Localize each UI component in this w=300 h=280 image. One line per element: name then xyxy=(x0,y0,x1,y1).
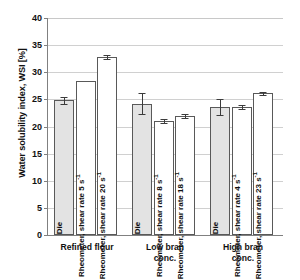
x-axis-category-labels: Refined flourLow branconc.High branconc. xyxy=(47,239,282,269)
y-tick-label: 25 xyxy=(32,95,42,104)
y-tick-label: 0 xyxy=(37,231,42,240)
error-bar-cap-top xyxy=(160,119,167,120)
y-tick-label: 10 xyxy=(32,176,42,185)
bar[interactable]: Rheometer, shear rate 18 s-1 xyxy=(175,116,195,235)
error-bar-cap-top xyxy=(238,105,245,106)
error-bar xyxy=(142,93,143,114)
bar[interactable]: Die xyxy=(54,100,74,235)
bar-label: Die xyxy=(56,222,64,234)
bar-label-superscript: -1 xyxy=(96,172,102,177)
bar-group: DieRheometer, shear rate 5 s-1Rheometer,… xyxy=(54,18,122,235)
bar[interactable]: Rheometer, shear rate 8 s-1 xyxy=(154,121,174,235)
bars-layer: DieRheometer, shear rate 5 s-1Rheometer,… xyxy=(48,18,283,235)
bar-label-superscript: -1 xyxy=(252,172,258,177)
error-bar-cap-bottom xyxy=(260,95,267,96)
error-bar-cap-top xyxy=(217,99,224,100)
error-bar-cap-bottom xyxy=(238,109,245,110)
error-bar-cap-top xyxy=(260,92,267,93)
bar[interactable]: Die xyxy=(210,107,230,235)
error-bar-cap-top xyxy=(182,114,189,115)
error-bar-cap-bottom xyxy=(182,118,189,119)
bar[interactable]: Die xyxy=(132,104,152,235)
error-bar-cap-bottom xyxy=(139,114,146,115)
bar-label-superscript: -1 xyxy=(174,172,180,177)
x-category-label: High branconc. xyxy=(209,242,277,263)
y-tick-label: 15 xyxy=(32,149,42,158)
x-category-label-line: conc. xyxy=(131,253,199,264)
bar[interactable]: Rheometer, shear rate 5 s-1 xyxy=(76,81,96,235)
x-category-label-line: conc. xyxy=(209,253,277,264)
bar-group: DieRheometer, shear rate 4 s-1Rheometer,… xyxy=(210,18,278,235)
bar[interactable]: Rheometer, shear rate 4 s-1 xyxy=(232,107,252,235)
y-tick-label: 40 xyxy=(32,14,42,23)
y-tick-label: 20 xyxy=(32,122,42,131)
bar[interactable]: Rheometer, shear rate 23 s-1 xyxy=(253,93,273,235)
error-bar xyxy=(220,99,221,115)
x-category-label-line: High bran xyxy=(209,242,277,253)
error-bar-cap-bottom xyxy=(104,59,111,60)
x-category-label-line: Refined flour xyxy=(53,242,121,253)
error-bar-cap-top xyxy=(139,93,146,94)
y-tick-label: 30 xyxy=(32,68,42,77)
x-category-label: Low branconc. xyxy=(131,242,199,263)
x-category-label-line: Low bran xyxy=(131,242,199,253)
error-bar-cap-top xyxy=(61,97,68,98)
error-bar-cap-bottom xyxy=(217,115,224,116)
bar-label-superscript: -1 xyxy=(153,175,159,180)
y-tick-label: 5 xyxy=(37,203,42,212)
bar-label-superscript: -1 xyxy=(75,175,81,180)
plot-area: 0510152025303540 DieRheometer, shear rat… xyxy=(47,18,283,236)
error-bar-cap-bottom xyxy=(61,104,68,105)
y-axis-title: Water solubility index, WSI [%] xyxy=(17,13,27,213)
bar-label: Die xyxy=(212,222,220,234)
error-bar-cap-bottom xyxy=(160,123,167,124)
bar[interactable]: Rheometer, shear rate 20 s-1 xyxy=(97,57,117,235)
error-bar-cap-top xyxy=(104,55,111,56)
y-tick-label: 35 xyxy=(32,41,42,50)
y-tick-mark xyxy=(44,235,48,236)
bar-label: Die xyxy=(134,222,142,234)
x-category-label: Refined flour xyxy=(53,242,121,253)
bar-label-superscript: -1 xyxy=(231,175,237,180)
bar-group: DieRheometer, shear rate 8 s-1Rheometer,… xyxy=(132,18,200,235)
